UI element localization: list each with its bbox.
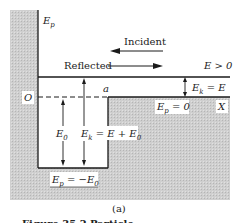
- potential-well-diagram: Ep Incident Reflected E > 0 Ek = E O a E…: [0, 0, 244, 223]
- y-axis-label: Ep: [42, 15, 55, 29]
- incident-arrow-icon: [110, 48, 163, 54]
- caption: Figure 35.2 Particle ...: [22, 218, 148, 223]
- reflected-arrow-icon: [108, 63, 163, 69]
- incident-label: Incident: [124, 36, 166, 47]
- ek-right-double-arrow-icon: [183, 77, 187, 97]
- origin-label: O: [24, 92, 32, 103]
- well-width-label: a: [103, 83, 109, 94]
- reflected-label: Reflected: [64, 60, 113, 71]
- x-axis-label: X: [217, 101, 226, 112]
- energy-label: E > 0: [203, 60, 233, 71]
- panel-label: (a): [112, 203, 126, 214]
